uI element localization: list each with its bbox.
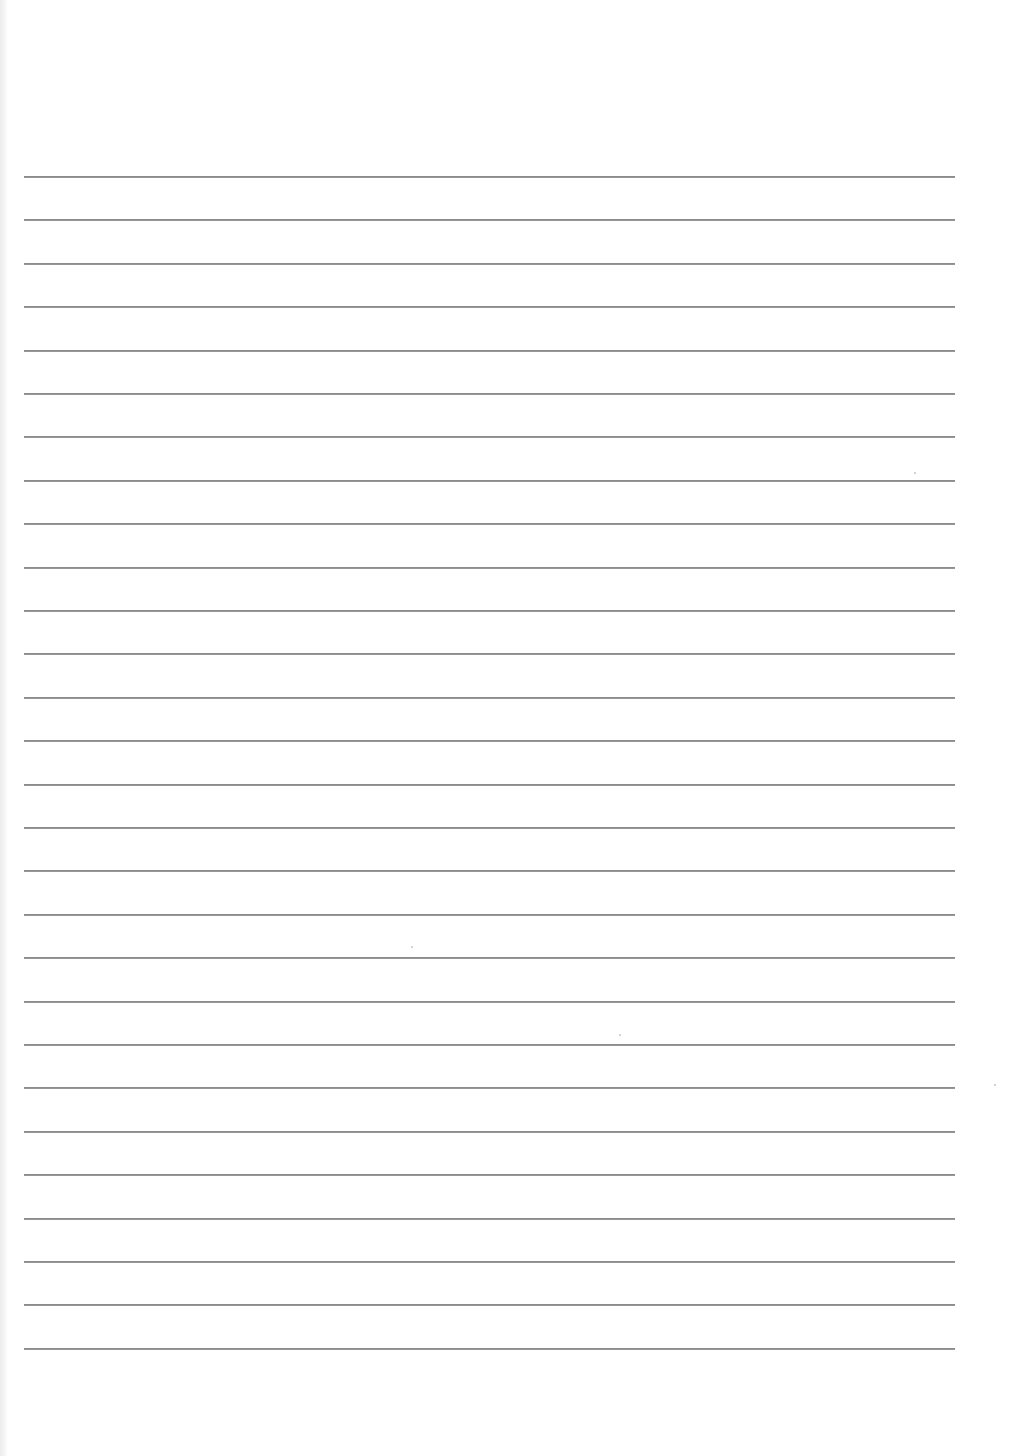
ruled-line: [24, 1261, 955, 1263]
scan-speck: [411, 946, 413, 948]
scan-speck: [994, 1084, 996, 1086]
scan-speck: [619, 1034, 621, 1036]
ruled-line: [24, 523, 955, 525]
ruled-line: [24, 480, 955, 482]
ruled-line: [24, 784, 955, 786]
ruled-line: [24, 219, 955, 221]
ruled-line: [24, 1348, 955, 1350]
ruled-line: [24, 176, 955, 178]
ruled-line: [24, 1087, 955, 1089]
ruled-line: [24, 1001, 955, 1003]
ruled-line: [24, 306, 955, 308]
ruled-line: [24, 1044, 955, 1046]
ruled-line: [24, 827, 955, 829]
ruled-line: [24, 957, 955, 959]
ruled-line: [24, 740, 955, 742]
ruled-line: [24, 263, 955, 265]
ruled-line: [24, 697, 955, 699]
ruled-line: [24, 393, 955, 395]
ruled-line: [24, 1131, 955, 1133]
ruled-line: [24, 610, 955, 612]
ruled-line: [24, 350, 955, 352]
ruled-line: [24, 1218, 955, 1220]
ruled-line: [24, 567, 955, 569]
ruled-paper-page: [0, 0, 1009, 1456]
ruled-line: [24, 653, 955, 655]
ruled-line: [24, 870, 955, 872]
ruled-line: [24, 436, 955, 438]
ruled-line: [24, 1174, 955, 1176]
ruled-line: [24, 1304, 955, 1306]
scan-edge-shadow: [0, 0, 8, 1456]
scan-speck: [914, 472, 916, 474]
ruled-line: [24, 914, 955, 916]
